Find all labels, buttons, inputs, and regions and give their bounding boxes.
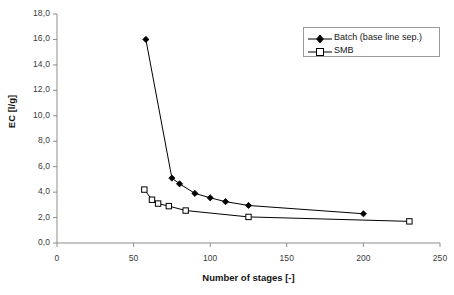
data-point-open-square xyxy=(149,197,154,202)
x-axis-title: Number of stages [-] xyxy=(57,272,440,283)
legend-label-smb: SMB xyxy=(334,45,354,55)
series-line xyxy=(144,190,409,222)
data-point-filled-diamond xyxy=(192,190,198,196)
data-point-open-square xyxy=(155,201,160,206)
y-axis-ticks xyxy=(53,14,57,243)
x-axis-tick-label: 100 xyxy=(190,253,230,263)
y-axis-tick-label: 16,0 xyxy=(6,33,50,43)
data-point-filled-diamond xyxy=(360,211,366,217)
data-point-open-square xyxy=(407,219,412,224)
data-point-filled-diamond xyxy=(207,195,213,201)
y-axis-tick-label: 18,0 xyxy=(6,8,50,18)
data-series-layer xyxy=(142,36,412,224)
data-point-open-square xyxy=(142,187,147,192)
data-point-open-square xyxy=(183,208,188,213)
legend-marker-filled-diamond-icon xyxy=(307,31,333,43)
x-axis-ticks xyxy=(57,243,440,247)
data-point-filled-diamond xyxy=(245,202,251,208)
x-axis-tick-label: 150 xyxy=(267,253,307,263)
data-point-open-square xyxy=(166,203,171,208)
legend-label-batch: Batch (base line sep.) xyxy=(334,32,422,42)
legend-marker-open-square-icon xyxy=(307,44,333,56)
y-axis-tick-label: 6,0 xyxy=(6,161,50,171)
legend-item-batch[interactable]: Batch (base line sep.) xyxy=(307,30,436,43)
data-point-filled-diamond xyxy=(143,36,149,42)
series-line xyxy=(146,39,364,213)
y-axis-tick-label: 4,0 xyxy=(6,186,50,196)
y-axis-tick-label: 14,0 xyxy=(6,59,50,69)
y-axis-tick-label: 2,0 xyxy=(6,212,50,222)
x-axis-tick-label: 0 xyxy=(37,253,77,263)
x-axis-tick-label: 50 xyxy=(114,253,154,263)
x-axis-tick-label: 250 xyxy=(420,253,454,263)
y-axis-title: EC [l/g] xyxy=(6,80,17,144)
data-series xyxy=(142,187,412,224)
data-point-filled-diamond xyxy=(222,199,228,205)
legend-item-smb[interactable]: SMB xyxy=(307,43,436,56)
data-point-open-square xyxy=(246,214,251,219)
chart-legend: Batch (base line sep.) SMB xyxy=(303,27,440,57)
chart-figure: 0,02,04,06,08,010,012,014,016,018,0 0501… xyxy=(0,0,454,295)
data-series xyxy=(143,36,367,216)
x-axis-tick-label: 200 xyxy=(343,253,383,263)
y-axis-tick-label: 0,0 xyxy=(6,237,50,247)
